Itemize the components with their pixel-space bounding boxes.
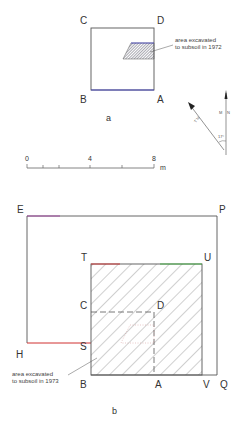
magnetic-north-arrowhead-icon [225, 90, 228, 99]
caption-b: b [112, 406, 117, 416]
corner-label-e: E [17, 204, 24, 215]
corner-label-h: H [16, 349, 23, 360]
annotation-1973-line2: to subsoil in 1973 [12, 378, 59, 384]
scale-tick-0: 0 [25, 155, 29, 162]
annotation-1972-line2: to subsoil in 1972 [175, 44, 222, 50]
corner-label-a: A [157, 94, 164, 105]
corner-label-p: P [219, 204, 226, 215]
corner-label-v: V [203, 379, 210, 390]
corner-label-d-b: D [157, 300, 164, 311]
caption-a: a [106, 113, 111, 123]
angle-arc [219, 141, 226, 142]
scale-unit: m [160, 164, 166, 171]
corner-label-c: C [80, 15, 87, 26]
hatched-area-1973 [91, 264, 202, 375]
label-n: N [227, 110, 230, 115]
corner-label-b-b: B [80, 379, 87, 390]
corner-label-c-b: C [80, 300, 87, 311]
scale-tick-8: 8 [152, 155, 156, 162]
corner-label-b: B [80, 94, 87, 105]
annotation-1972-line1: area excavated [175, 37, 216, 43]
label-angle: 17° [218, 134, 224, 139]
corner-label-u: U [204, 252, 211, 263]
site-plan-diagram: C D B A area excavated to subsoil in 197… [0, 0, 243, 425]
hatched-area-1972 [123, 43, 154, 59]
figure-a: C D B A area excavated to subsoil in 197… [80, 15, 222, 123]
label-m: M [219, 110, 222, 115]
corner-label-t: T [81, 252, 87, 263]
label-true-north: T N [193, 115, 201, 123]
scale-bar: 0 4 8 m [25, 155, 166, 171]
scale-tick-4: 4 [88, 155, 92, 162]
corner-label-s: S [80, 341, 87, 352]
figure-b: E P T U C D H S B A V Q area excavated t… [12, 204, 228, 416]
corner-label-a-b: A [155, 379, 162, 390]
true-north-arrowhead-icon [188, 102, 195, 110]
annotation-1973-line1: area excavated [12, 371, 53, 377]
north-arrow: M N T N 17° [188, 90, 230, 155]
corner-label-q: Q [220, 379, 228, 390]
corner-label-d: D [157, 15, 164, 26]
